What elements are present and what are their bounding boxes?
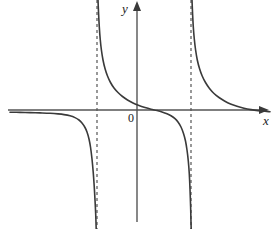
- plot-canvas: [0, 0, 275, 229]
- y-axis-group: [133, 1, 141, 222]
- curve-branch-middle: [98, 0, 191, 229]
- y-axis-arrowhead: [133, 1, 141, 11]
- asymptote-group: [97, 0, 191, 229]
- origin-label: 0: [128, 112, 134, 124]
- curve-branch-left: [10, 112, 96, 229]
- x-axis-label: x: [263, 114, 269, 127]
- function-graph-figure: y x 0: [0, 0, 275, 229]
- curve-group: [10, 0, 270, 229]
- curve-branch-right: [192, 0, 270, 112]
- y-axis-label: y: [122, 2, 128, 15]
